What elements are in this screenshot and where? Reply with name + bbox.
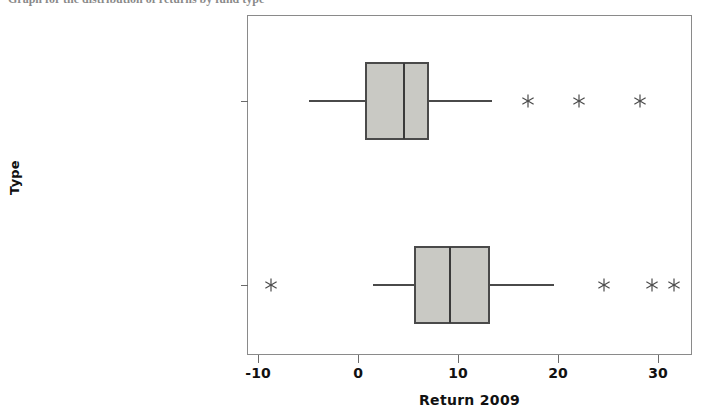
caption-strip: Graph for the distribution of returns by… [0,0,706,11]
x-axis-tick-label: 30 [628,365,688,381]
x-axis-tick [258,355,259,363]
x-axis-tick [358,355,359,363]
category-tick-intermediate-government [241,101,248,102]
x-axis-tick [658,355,659,363]
x-axis-tick [458,355,459,363]
x-axis-tick-label: 20 [528,365,588,381]
y-axis-title: Type [7,148,22,208]
x-axis-tick-label: 0 [328,365,388,381]
caption-text: Graph for the distribution of returns by… [8,0,264,7]
x-axis-tick [558,355,559,363]
x-axis-title: Return 2009 [247,392,692,408]
category-tick-short-term-corporate [241,285,248,286]
x-axis-tick-label: 10 [428,365,488,381]
x-axis-tick-label: -10 [228,365,288,381]
plot-frame [247,15,692,355]
